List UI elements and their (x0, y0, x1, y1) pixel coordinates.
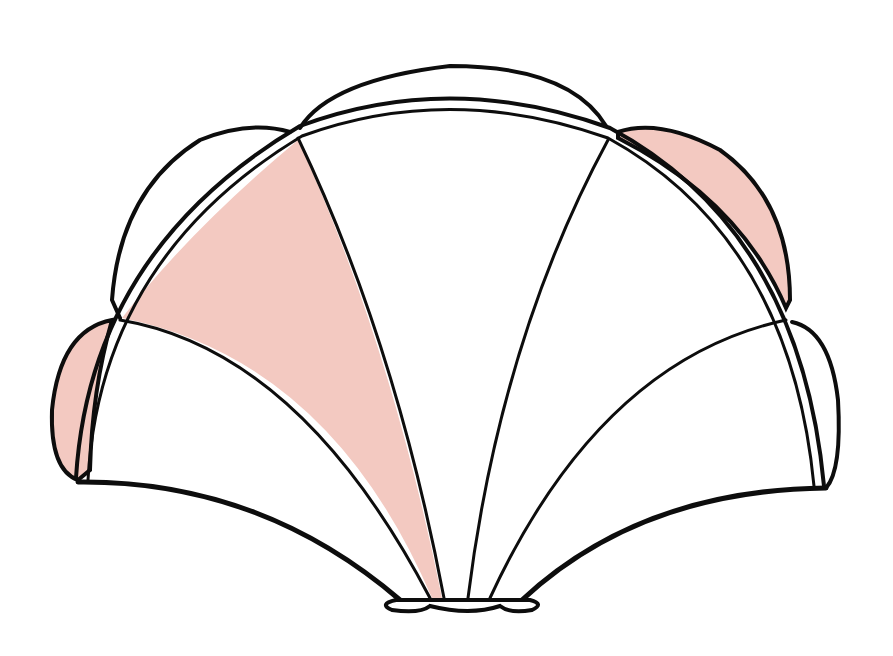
pedestal (386, 600, 538, 611)
base-curve-right (522, 488, 826, 600)
base-curve-left (78, 482, 400, 600)
fan-vault-diagram (0, 0, 893, 656)
panel-left-inner (122, 140, 442, 598)
lobe-far-right (792, 322, 839, 488)
rib-right-inner (468, 140, 608, 598)
rib-right-outer (490, 320, 786, 598)
